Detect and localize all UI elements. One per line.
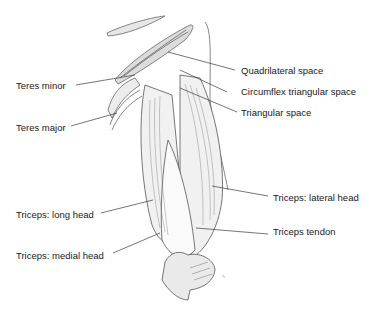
label-triceps-tendon: Triceps tendon	[273, 226, 336, 237]
label-triceps-medial-head: Triceps: medial head	[16, 250, 104, 261]
label-circumflex-triangular-space: Circumflex triangular space	[241, 86, 356, 97]
label-teres-major: Teres major	[16, 122, 66, 133]
arm-muscle-drawing: ✎	[0, 0, 371, 310]
label-quadrilateral-space: Quadrilateral space	[241, 65, 323, 76]
anatomy-illustration: ✎ Teres minor Teres major Quadrilateral …	[0, 0, 371, 310]
label-teres-minor: Teres minor	[16, 80, 66, 91]
label-triangular-space: Triangular space	[241, 107, 311, 118]
artist-signature: ✎	[222, 275, 225, 279]
elbow	[162, 252, 215, 300]
label-triceps-lateral-head: Triceps: lateral head	[273, 192, 359, 203]
label-triceps-long-head: Triceps: long head	[16, 209, 94, 220]
